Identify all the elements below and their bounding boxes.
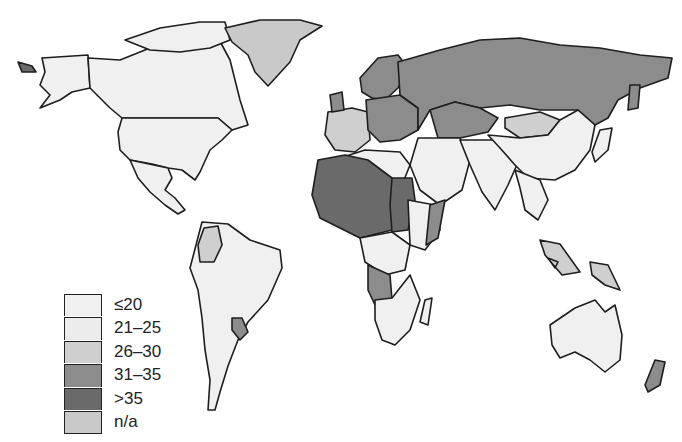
region-kamchatka-sakhalin: [628, 85, 640, 110]
legend-item: 26–30: [64, 340, 161, 364]
region-australia: [550, 300, 622, 372]
map-legend: ≤20 21–25 26–30 31–35 >35 n/a: [64, 293, 161, 434]
region-greenland: [225, 20, 322, 86]
legend-item: 31–35: [64, 364, 161, 388]
legend-item: ≤20: [64, 293, 161, 317]
legend-swatch: [64, 341, 102, 364]
legend-label: n/a: [114, 412, 138, 432]
legend-swatch: [64, 388, 102, 411]
region-new-guinea: [590, 262, 620, 290]
legend-swatch: [64, 294, 102, 317]
region-uk: [330, 92, 344, 112]
region-alaska: [40, 55, 90, 108]
region-indonesia: [540, 240, 580, 275]
region-middle-east: [410, 138, 470, 205]
legend-swatch: [64, 411, 102, 435]
region-western-europe: [325, 108, 370, 152]
legend-label: 21–25: [114, 318, 161, 338]
legend-item: n/a: [64, 411, 161, 435]
region-new-zealand: [645, 360, 665, 392]
legend-label: ≤20: [114, 295, 142, 315]
legend-label: 26–30: [114, 342, 161, 362]
region-japan: [592, 128, 612, 162]
legend-item: >35: [64, 387, 161, 411]
legend-label: 31–35: [114, 365, 161, 385]
legend-label: >35: [114, 389, 143, 409]
region-aleutians: [18, 62, 36, 72]
region-madagascar: [420, 298, 432, 325]
legend-item: 21–25: [64, 317, 161, 341]
legend-swatch: [64, 364, 102, 387]
legend-swatch: [64, 317, 102, 340]
